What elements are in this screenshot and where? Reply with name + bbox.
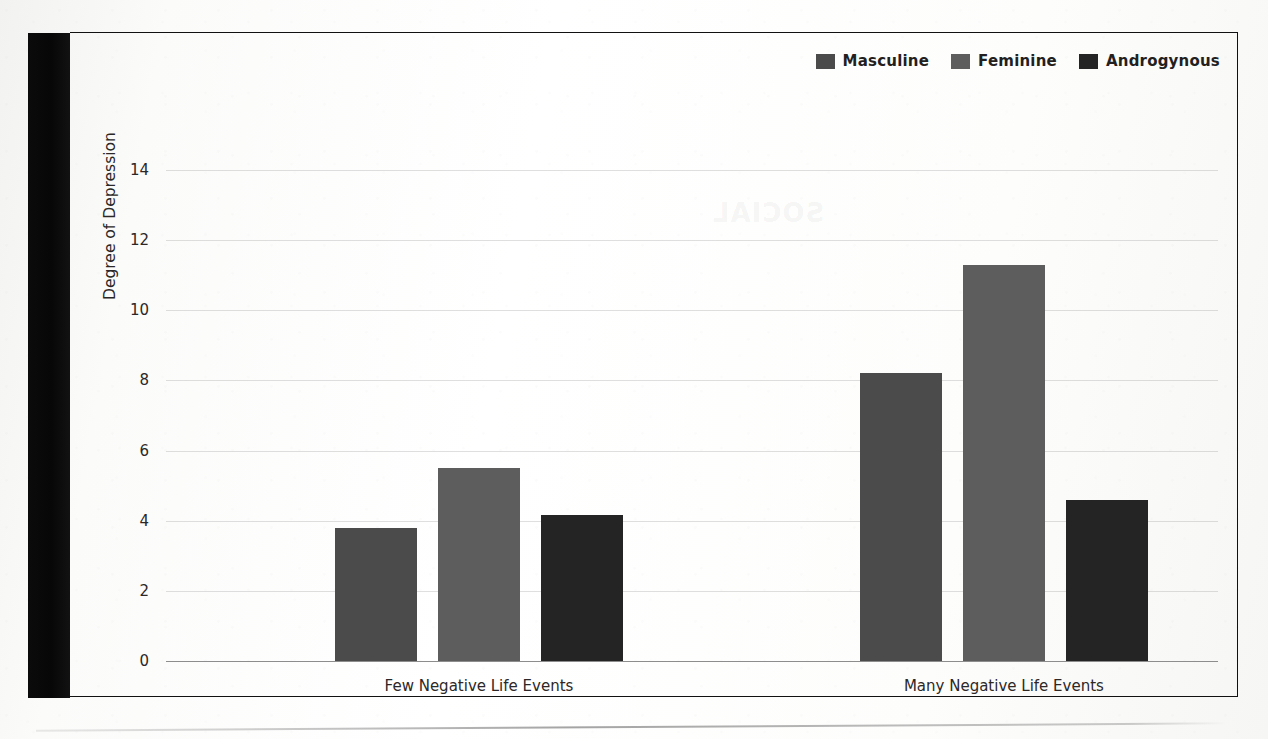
book-binding-gutter — [28, 33, 70, 698]
chart-frame-border — [70, 32, 1238, 697]
